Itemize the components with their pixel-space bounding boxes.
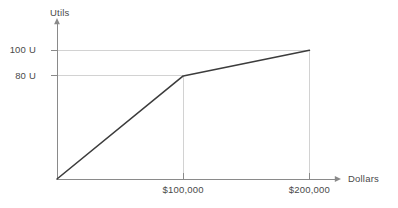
- x-tick-label-200k: $200,000: [269, 185, 349, 195]
- y-tick-label-80u: 80 U: [0, 71, 36, 81]
- x-axis-arrow-icon: [335, 176, 341, 182]
- chart-canvas: [0, 0, 398, 208]
- y-tick-label-100u: 100 U: [0, 45, 36, 55]
- y-axis-arrow-icon: [54, 18, 60, 24]
- utility-curve-chart: Utils Dollars 100 U 80 U $100,000 $200,0…: [0, 0, 398, 208]
- y-axis-label: Utils: [50, 8, 69, 18]
- x-tick-label-100k: $100,000: [143, 185, 223, 195]
- x-axis-label: Dollars: [348, 174, 379, 184]
